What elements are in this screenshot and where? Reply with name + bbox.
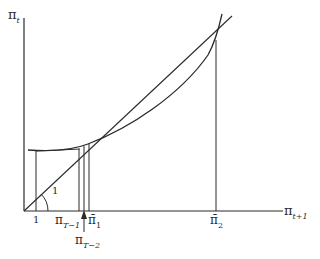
phase-diagram (0, 0, 320, 259)
y-label-symbol: π (8, 7, 17, 22)
pi-T2-sub: T−2 (83, 241, 100, 250)
pi-bar-2-symbol: π̄ (210, 213, 218, 227)
pi-bar-2-sub: 2 (218, 221, 223, 230)
x-label-sub: t+1 (293, 212, 308, 221)
y-label-sub: t (17, 16, 20, 25)
tick-label-pi-bar-2: π̄2 (210, 214, 223, 230)
tick-label-pi-bar-1: π̄1 (88, 214, 101, 230)
x-axis-label: πt+1 (284, 204, 308, 221)
tick-label-pi-T-2: πT−2 (75, 234, 100, 250)
pi-T1-sub: T−1 (63, 221, 80, 230)
x-label-symbol: π (284, 203, 293, 218)
angle-arc (41, 194, 48, 211)
pi-bar-1-sub: 1 (96, 221, 101, 230)
pi-T2-symbol: π (75, 233, 83, 247)
difference-equation-curve (28, 14, 222, 151)
pi-T1-symbol: π (55, 213, 63, 227)
y-axis-label: πt (8, 8, 20, 25)
pi-bar-1-symbol: π̄ (88, 213, 96, 227)
angle-label: 1 (52, 186, 58, 196)
forty-five-degree-line (24, 16, 232, 211)
tick-label-pi-T-1: πT−1 (55, 214, 80, 230)
tick-label-one: 1 (33, 215, 39, 225)
